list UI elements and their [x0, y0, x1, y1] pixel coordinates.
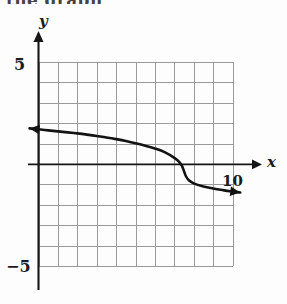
y-axis-label: y	[38, 12, 49, 30]
point-annotation-10: 10	[222, 172, 243, 190]
y-tick-label-top: 5	[14, 55, 25, 74]
coordinate-plane-svg: x y 5 −5 10	[0, 0, 287, 304]
y-tick-label-bottom: −5	[6, 257, 31, 276]
x-axis-arrowhead-icon	[252, 160, 262, 170]
x-axis	[28, 160, 262, 170]
function-curve-group	[30, 125, 241, 196]
y-axis-arrowhead-icon	[34, 31, 44, 42]
function-curve	[30, 128, 241, 192]
x-axis-label: x	[266, 153, 277, 171]
graph-figure: the graph x y 5 −5 10	[0, 0, 287, 304]
y-axis	[34, 31, 44, 290]
